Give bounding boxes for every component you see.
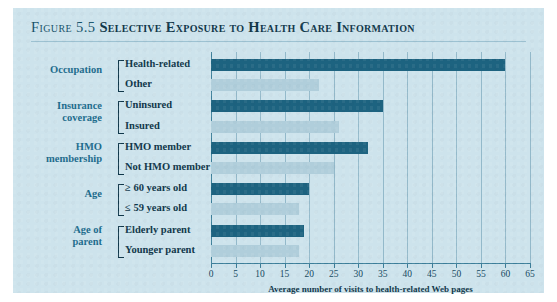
tick-35: [383, 263, 384, 268]
tick-15: [285, 263, 286, 268]
figure-header: Figure 5.5Selective Exposure to Health C…: [31, 18, 534, 40]
tick-5: [236, 263, 237, 268]
group-label: HMO membership: [7, 141, 102, 165]
tick-label-60: 60: [501, 269, 511, 279]
tick-label-25: 25: [329, 269, 339, 279]
group-label: Age of parent: [7, 224, 102, 248]
tick-label-40: 40: [403, 269, 413, 279]
tick-25: [334, 263, 335, 268]
tick-label-55: 55: [476, 269, 486, 279]
bar: [211, 225, 304, 237]
bar-label: Uninsured: [125, 99, 172, 111]
tick-label-5: 5: [233, 269, 238, 279]
gridline-35: [383, 52, 384, 263]
bar: [211, 203, 299, 215]
group-label: Age: [7, 188, 102, 200]
bar-label: Insured: [125, 120, 160, 132]
bar-label: Not HMO member: [125, 161, 210, 173]
bar: [211, 121, 339, 133]
tick-label-15: 15: [280, 269, 290, 279]
tick-40: [407, 263, 408, 268]
gridline-65: [530, 52, 531, 263]
x-axis-title: Average number of visits to health-relat…: [211, 284, 530, 294]
tick-65: [530, 263, 531, 268]
bar: [211, 183, 309, 195]
group-brace: [118, 226, 124, 258]
tick-55: [481, 263, 482, 268]
bar: [211, 59, 505, 71]
bar: [211, 142, 368, 154]
tick-label-30: 30: [353, 269, 363, 279]
plot-area: [211, 52, 530, 263]
bar: [211, 100, 383, 112]
tick-label-45: 45: [427, 269, 437, 279]
bar-label: ≥ 60 years old: [125, 182, 187, 194]
tick-label-10: 10: [255, 269, 265, 279]
group-brace: [118, 184, 124, 216]
group-label: Occupation: [7, 64, 102, 76]
figure-number: Figure 5.5: [31, 19, 95, 36]
tick-label-0: 0: [209, 269, 214, 279]
tick-20: [309, 263, 310, 268]
group-brace: [118, 101, 124, 133]
gridline-40: [407, 52, 408, 263]
gridline-55: [481, 52, 482, 263]
bar-label: Younger parent: [125, 244, 195, 256]
bar: [211, 162, 334, 174]
bar-label: Health-related: [125, 58, 190, 70]
tick-50: [456, 263, 457, 268]
gridline-25: [334, 52, 335, 263]
figure-title: Selective Exposure to Health Care Inform…: [99, 19, 415, 36]
tick-45: [432, 263, 433, 268]
group-brace: [118, 60, 124, 92]
tick-label-50: 50: [452, 269, 462, 279]
bar-label: ≤ 59 years old: [125, 202, 187, 214]
tick-label-35: 35: [378, 269, 388, 279]
gridline-30: [358, 52, 359, 263]
x-axis-line: [211, 263, 530, 264]
tick-label-20: 20: [304, 269, 314, 279]
tick-label-65: 65: [525, 269, 535, 279]
bar-label: Other: [125, 78, 152, 90]
bar: [211, 245, 299, 257]
group-brace: [118, 143, 124, 175]
bar-label: HMO member: [125, 141, 191, 153]
gridline-50: [456, 52, 457, 263]
tick-10: [260, 263, 261, 268]
figure-panel: Figure 5.5Selective Exposure to Health C…: [13, 8, 544, 293]
bar-label: Elderly parent: [125, 224, 190, 236]
tick-0: [211, 263, 212, 268]
group-label: Insurance coverage: [7, 100, 102, 124]
tick-60: [505, 263, 506, 268]
title-divider: [31, 41, 526, 42]
bar: [211, 79, 319, 91]
tick-30: [358, 263, 359, 268]
gridline-45: [432, 52, 433, 263]
gridline-60: [505, 52, 506, 263]
